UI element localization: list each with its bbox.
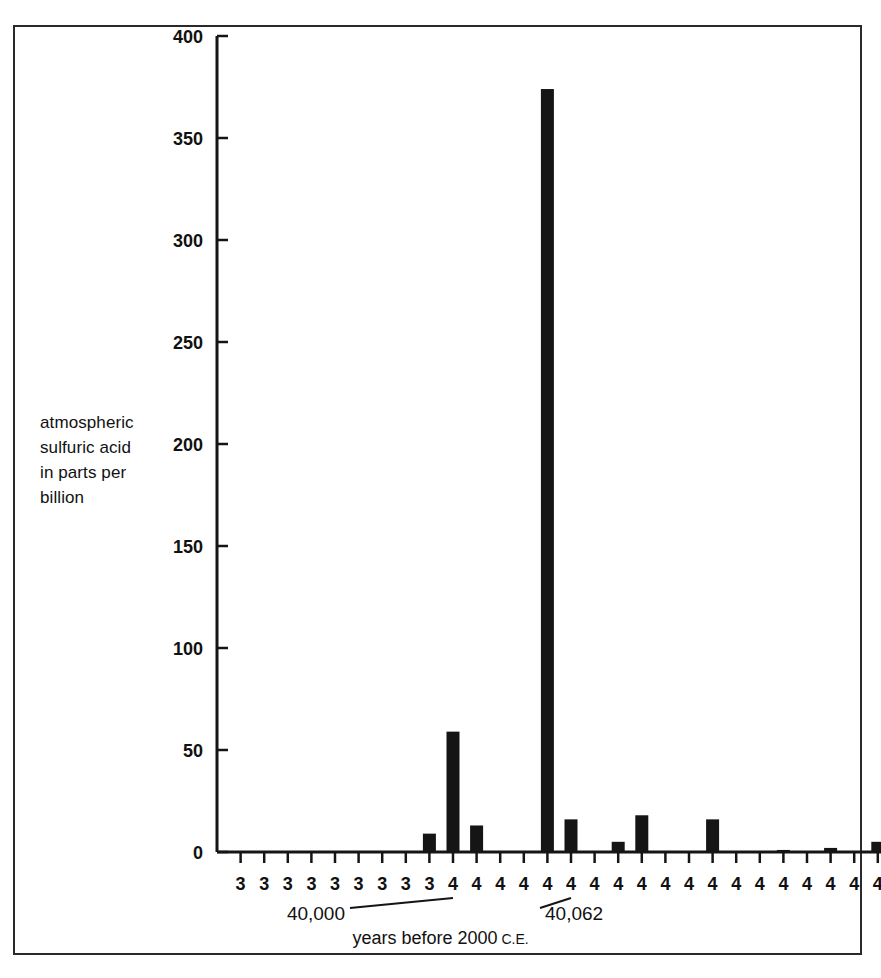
- y-axis-caption-line: sulfuric acid: [40, 435, 170, 460]
- x-tick-label: 3: [330, 874, 340, 894]
- x-tick-label: 4: [637, 874, 647, 894]
- x-tick-label: 3: [354, 874, 364, 894]
- x-tick-label: 4: [755, 874, 765, 894]
- bar: [470, 825, 483, 852]
- bar: [423, 834, 436, 852]
- x-tick-label: 3: [283, 874, 293, 894]
- x-tick-labels-group: 3333333334444444444444444444: [236, 874, 881, 894]
- x-axis-title: years before 2000 C.E.: [0, 928, 881, 949]
- x-tick-label: 4: [613, 874, 623, 894]
- y-axis-caption: atmosphericsulfuric acidin parts perbill…: [40, 410, 170, 510]
- x-tick-label: 3: [259, 874, 269, 894]
- bar: [706, 819, 719, 852]
- x-axis-title-suffix: C.E.: [497, 931, 528, 947]
- y-tick-label: 300: [173, 231, 203, 251]
- x-tick-label: 4: [448, 874, 458, 894]
- x-tick-label: 4: [472, 874, 482, 894]
- annotations-group: 40,00040,062: [287, 898, 603, 924]
- bar: [635, 815, 648, 852]
- annotation-label: 40,000: [287, 903, 345, 924]
- y-tick-label: 200: [173, 435, 203, 455]
- y-tick-label: 150: [173, 537, 203, 557]
- x-tick-label: 4: [519, 874, 529, 894]
- x-tick-label: 4: [778, 874, 788, 894]
- x-tick-label: 4: [495, 874, 505, 894]
- plot-area: 3333333334444444444444444444 40035030025…: [0, 0, 881, 978]
- x-tick-label: 3: [401, 874, 411, 894]
- x-tick-label: 4: [802, 874, 812, 894]
- y-tick-label: 400: [173, 27, 203, 47]
- x-tick-label: 4: [660, 874, 670, 894]
- annotation-label: 40,062: [545, 903, 603, 924]
- x-tick-label: 3: [377, 874, 387, 894]
- bars-group: [423, 89, 881, 852]
- bar: [871, 842, 881, 852]
- x-tick-label: 4: [542, 874, 552, 894]
- x-tick-label: 4: [708, 874, 718, 894]
- bar: [541, 89, 554, 852]
- x-tick-label: 4: [873, 874, 881, 894]
- x-tick-label: 4: [566, 874, 576, 894]
- x-tick-label: 4: [826, 874, 836, 894]
- y-axis-caption-line: atmospheric: [40, 410, 170, 435]
- y-tick-label: 100: [173, 639, 203, 659]
- x-axis-title-main: years before 2000: [352, 928, 497, 948]
- y-axis-caption-line: billion: [40, 485, 170, 510]
- bar: [612, 842, 625, 852]
- y-tick-label: 350: [173, 129, 203, 149]
- x-tick-label: 3: [424, 874, 434, 894]
- bar: [565, 819, 578, 852]
- bar: [447, 732, 460, 852]
- figure-container: 3333333334444444444444444444 40035030025…: [0, 0, 881, 978]
- x-tick-label: 4: [590, 874, 600, 894]
- y-tick-label: 0: [193, 843, 203, 863]
- annotation-leader-line: [350, 898, 453, 908]
- x-tick-label: 4: [684, 874, 694, 894]
- y-tick-label: 50: [183, 741, 203, 761]
- y-tick-labels-group: 400350300250200150100500: [173, 27, 203, 863]
- y-axis-caption-line: in parts per: [40, 460, 170, 485]
- x-tick-label: 4: [849, 874, 859, 894]
- x-tick-label: 4: [731, 874, 741, 894]
- y-tick-label: 250: [173, 333, 203, 353]
- x-tick-label: 3: [236, 874, 246, 894]
- x-tick-label: 3: [306, 874, 316, 894]
